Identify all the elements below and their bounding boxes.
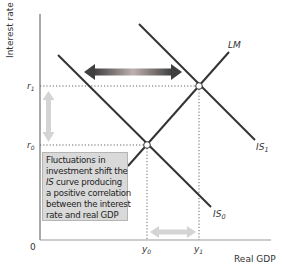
- callout-line-4: a positive correlation: [46, 188, 124, 199]
- is-lm-diagram: LM IS1 IS0 r1 r0 y0 y1 0 Real GDP Intere…: [0, 0, 282, 271]
- y0-tick-label: y0: [141, 244, 151, 255]
- callout-line-5: between the interest: [46, 199, 124, 210]
- origin-label: 0: [30, 242, 36, 252]
- x-axis-title: Real GDP: [234, 254, 276, 264]
- r0-tick-label: r0: [27, 140, 35, 151]
- explanation-callout: Fluctuations in investment shift the IS …: [42, 152, 128, 221]
- callout-line-1: Fluctuations in: [46, 155, 124, 166]
- y1-tick-label: y1: [193, 244, 203, 255]
- y-axis-title: Interest rate: [5, 2, 15, 58]
- is0-label: IS0: [213, 209, 226, 221]
- interest-rate-change-arrow: [43, 91, 55, 142]
- callout-line-2: investment shift the: [46, 166, 124, 177]
- lm-label: LM: [228, 40, 241, 50]
- callout-line-3: IS curve producing: [46, 177, 124, 188]
- is-shift-arrow: [84, 64, 182, 80]
- real-gdp-change-arrow: [150, 226, 196, 238]
- equilibrium-point-1: [196, 83, 203, 90]
- r1-tick-label: r1: [27, 81, 35, 92]
- equilibrium-point-0: [144, 142, 151, 149]
- callout-line-6: rate and real GDP: [46, 210, 124, 221]
- is1-label: IS1: [256, 142, 269, 154]
